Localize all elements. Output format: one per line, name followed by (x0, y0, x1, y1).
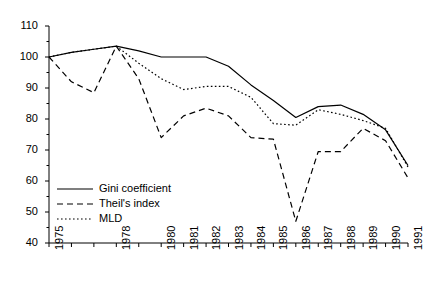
y-axis-tick-label: 100 (8, 51, 38, 62)
x-axis-tick-label: 1991 (413, 226, 424, 250)
legend-item-label: Theil's index (99, 198, 160, 209)
x-axis-tick-label: 1988 (346, 226, 357, 250)
x-axis-tick-label: 1975 (54, 226, 65, 250)
x-axis-tick-label: 1985 (278, 226, 289, 250)
x-axis-tick-label: 1987 (323, 226, 334, 250)
legend-item-label: MLD (99, 213, 122, 224)
y-axis-tick-label: 40 (8, 237, 38, 248)
x-axis-tick-label: 1983 (234, 226, 245, 250)
x-axis-tick-label: 1982 (211, 226, 222, 250)
series-line-0 (49, 46, 408, 165)
series-line-2 (49, 46, 408, 167)
y-axis-tick-label: 50 (8, 206, 38, 217)
x-axis-tick-label: 1980 (166, 226, 177, 250)
chart-legend-lines (57, 189, 93, 219)
x-axis-tick-label: 1981 (189, 226, 200, 250)
x-axis-tick-label: 1978 (121, 226, 132, 250)
y-axis-tick-label: 90 (8, 82, 38, 93)
series-line-1 (49, 46, 408, 221)
legend-item-label: Gini coefficient (99, 183, 171, 194)
x-axis-tick-label: 1989 (368, 226, 379, 250)
y-axis-tick-label: 70 (8, 144, 38, 155)
y-axis-tick-label: 110 (8, 20, 38, 31)
x-axis-tick-label: 1986 (301, 226, 312, 250)
x-axis-tick-label: 1990 (391, 226, 402, 250)
x-axis-tick-label: 1984 (256, 226, 267, 250)
y-axis-tick-label: 80 (8, 113, 38, 124)
chart-series-layer (49, 46, 408, 221)
y-axis-tick-label: 60 (8, 175, 38, 186)
